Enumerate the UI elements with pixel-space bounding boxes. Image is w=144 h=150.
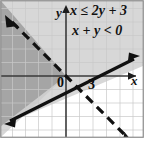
- x-intercept-tick-label: 3: [88, 78, 95, 92]
- x-axis-label: x: [131, 74, 138, 87]
- inequality-label-1: x ≤ 2y + 3: [70, 4, 127, 18]
- graph-frame: x ≤ 2y + 3 x + y < 0 y x 0 3: [0, 0, 144, 150]
- y-axis-label: y: [56, 6, 62, 19]
- inequality-graph-figure: x ≤ 2y + 3 x + y < 0 y x 0 3: [0, 0, 144, 150]
- origin-label: 0: [57, 76, 64, 90]
- inequality-label-2: x + y < 0: [72, 24, 122, 38]
